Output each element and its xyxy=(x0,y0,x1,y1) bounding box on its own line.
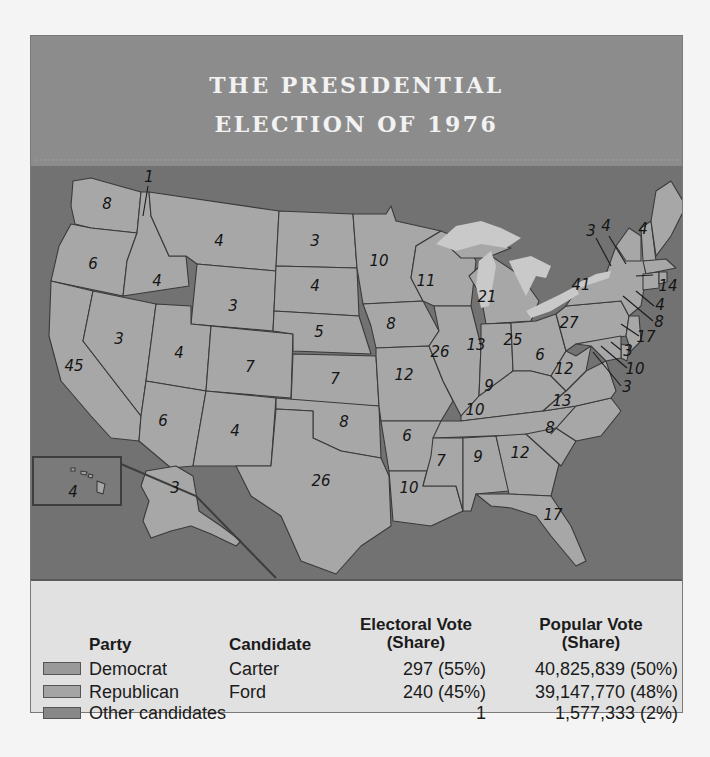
ev-AK: 3 xyxy=(170,479,180,497)
ev-NY: 41 xyxy=(571,276,590,294)
ev-NV: 3 xyxy=(114,330,124,348)
electoral-republican: 240 (45%) xyxy=(331,682,486,702)
header-party: Party xyxy=(89,635,132,655)
header-electoral-line-1: Electoral Vote xyxy=(341,615,491,635)
ev-MD: 10 xyxy=(625,360,644,378)
swatch-other xyxy=(43,707,81,719)
title-line-1: THE PRESIDENTIAL xyxy=(31,66,682,105)
ev-CO: 7 xyxy=(245,358,255,376)
state-FL xyxy=(476,494,586,566)
state-IA xyxy=(363,301,439,348)
ev-TX: 26 xyxy=(311,472,330,490)
ev-OR: 6 xyxy=(88,255,98,273)
us-electoral-map: 8 6 45 4 3 4 3 4 6 7 4 3 4 5 7 8 26 10 8… xyxy=(31,166,682,579)
state-ME xyxy=(651,181,682,256)
party-democrat: Democrat xyxy=(89,659,167,679)
ev-OK: 8 xyxy=(339,413,349,431)
legend-table: Party Candidate Electoral Vote (Share) P… xyxy=(31,579,682,712)
ev-VT: 3 xyxy=(586,222,596,240)
ev-RI: 4 xyxy=(655,296,665,314)
ev-WY: 3 xyxy=(228,297,238,315)
party-republican: Republican xyxy=(89,682,179,702)
ev-AZ: 6 xyxy=(158,412,168,430)
electoral-other: 1 xyxy=(331,703,486,723)
title-line-2: ELECTION OF 1976 xyxy=(31,105,682,144)
ev-MI: 21 xyxy=(477,288,496,306)
ev-ND: 3 xyxy=(310,232,320,250)
ev-CT: 8 xyxy=(654,313,664,331)
title-band: THE PRESIDENTIAL ELECTION OF 1976 xyxy=(31,36,682,166)
ev-AL: 9 xyxy=(473,448,483,466)
ev-NH: 4 xyxy=(601,217,611,235)
ev-NE: 5 xyxy=(314,323,324,341)
ev-VA: 12 xyxy=(554,360,573,378)
header-popular-line-2: (Share) xyxy=(501,633,681,653)
ev-NC: 13 xyxy=(552,392,571,410)
ev-NM: 4 xyxy=(230,422,240,440)
swatch-democrat xyxy=(43,662,81,675)
ev-DE: 3 xyxy=(623,342,633,360)
electoral-democrat: 297 (55%) xyxy=(331,659,486,679)
ev-PA: 27 xyxy=(559,314,579,332)
leader-line-VT xyxy=(596,238,611,266)
ev-NJ: 17 xyxy=(636,328,656,346)
candidate-carter: Carter xyxy=(229,659,279,679)
header-popular-line-1: Popular Vote xyxy=(501,615,681,635)
ev-WA-faithless: 1 xyxy=(144,168,154,186)
ev-ID: 4 xyxy=(152,272,162,290)
ev-FL: 17 xyxy=(543,506,563,524)
ev-KY: 9 xyxy=(484,377,494,395)
ev-IN: 13 xyxy=(466,336,485,354)
figure-title: THE PRESIDENTIAL ELECTION OF 1976 xyxy=(31,66,682,144)
ev-SC: 8 xyxy=(545,419,555,437)
ev-HI: 4 xyxy=(68,483,78,501)
ev-SD: 4 xyxy=(310,277,320,295)
ev-WA: 8 xyxy=(102,195,112,213)
ev-TN: 10 xyxy=(465,401,484,419)
ev-MO: 12 xyxy=(394,366,413,384)
ev-UT: 4 xyxy=(174,344,184,362)
ev-MS: 7 xyxy=(436,452,446,470)
popular-other: 1,577,333 (2%) xyxy=(491,703,678,723)
ev-WV: 6 xyxy=(535,346,545,364)
ev-IA: 8 xyxy=(386,315,396,333)
ev-WI: 11 xyxy=(416,272,435,290)
ev-MN: 10 xyxy=(369,252,388,270)
map-svg: 8 6 45 4 3 4 3 4 6 7 4 3 4 5 7 8 26 10 8… xyxy=(31,166,682,579)
party-other: Other candidates xyxy=(89,703,226,723)
ev-IL: 26 xyxy=(430,343,449,361)
ev-AR: 6 xyxy=(402,427,412,445)
popular-republican: 39,147,770 (48%) xyxy=(491,682,678,702)
ev-ME: 4 xyxy=(638,220,648,238)
popular-democrat: 40,825,839 (50%) xyxy=(491,659,678,679)
swatch-republican xyxy=(43,685,81,698)
header-candidate: Candidate xyxy=(229,635,311,655)
ev-LA: 10 xyxy=(399,479,418,497)
candidate-ford: Ford xyxy=(229,682,266,702)
map-figure: THE PRESIDENTIAL ELECTION OF 1976 xyxy=(30,35,683,713)
header-electoral-line-2: (Share) xyxy=(341,633,491,653)
title-divider xyxy=(35,159,678,163)
ev-MA: 14 xyxy=(658,277,677,295)
ev-MT: 4 xyxy=(214,232,224,250)
ev-DC: 3 xyxy=(622,378,632,396)
ev-CA: 45 xyxy=(64,357,83,375)
ev-OH: 25 xyxy=(503,331,522,349)
ev-GA: 12 xyxy=(510,444,529,462)
ev-KS: 7 xyxy=(330,370,340,388)
